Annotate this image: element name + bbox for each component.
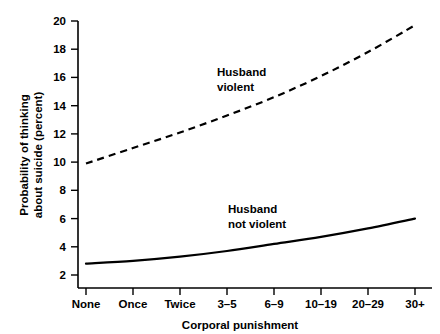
- y-axis-ticks: [71, 21, 78, 275]
- series-line-husband-violent: [86, 25, 415, 163]
- y-tick-label: 12: [53, 128, 66, 140]
- x-tick-label-twice: Twice: [164, 298, 195, 310]
- y-axis-title-line1: Probability of thinking: [18, 94, 30, 215]
- y-axis-title-line2: about suicide (percent): [32, 92, 44, 219]
- line-chart: 20 18 16 14 12 10 8 6 4 2 None Once Twic: [0, 0, 440, 334]
- x-axis-ticks: [86, 288, 415, 295]
- y-axis-tick-labels: 20 18 16 14 12 10 8 6 4 2: [53, 15, 66, 281]
- x-tick-label-none: None: [72, 298, 101, 310]
- x-axis-title: Corporal punishment: [182, 319, 298, 331]
- y-tick-label: 6: [60, 213, 66, 225]
- y-tick-label: 16: [53, 71, 66, 83]
- x-axis-tick-labels: None Once Twice 3–5 6–9 10–19 20–29 30+: [72, 298, 425, 310]
- annotation-husband-not-violent-line1: Husband: [228, 203, 277, 215]
- annotation-husband-violent: Husband violent: [217, 66, 266, 93]
- chart-container: 20 18 16 14 12 10 8 6 4 2 None Once Twic: [0, 0, 440, 334]
- annotation-husband-not-violent-line2: not violent: [228, 218, 286, 230]
- y-tick-label: 14: [53, 100, 66, 112]
- annotation-husband-violent-line2: violent: [217, 81, 254, 93]
- y-tick-label: 20: [53, 15, 66, 27]
- y-tick-label: 8: [60, 184, 67, 196]
- x-tick-label-3-5: 3–5: [217, 298, 237, 310]
- cropped-title-remnant: [0, 0, 440, 1]
- y-tick-label: 18: [53, 43, 66, 55]
- x-tick-label-6-9: 6–9: [264, 298, 283, 310]
- y-tick-label: 2: [60, 269, 66, 281]
- y-axis-title: Probability of thinking about suicide (p…: [18, 92, 44, 219]
- x-tick-label-30plus: 30+: [405, 298, 425, 310]
- x-tick-label-10-19: 10–19: [305, 298, 337, 310]
- x-tick-label-once: Once: [119, 298, 148, 310]
- annotation-husband-not-violent: Husband not violent: [228, 203, 286, 230]
- annotation-husband-violent-line1: Husband: [217, 66, 266, 78]
- x-tick-label-20-29: 20–29: [352, 298, 384, 310]
- y-tick-label: 4: [60, 241, 67, 253]
- y-tick-label: 10: [53, 156, 66, 168]
